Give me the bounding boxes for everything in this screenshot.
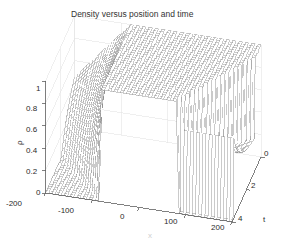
t-tick-4: 4 <box>238 215 242 223</box>
t-axis-label: t <box>263 216 265 224</box>
z-axis-label: ρ <box>16 140 24 145</box>
z-tick-0: 0 <box>36 189 40 197</box>
z-tick-0_4: 0.4 <box>26 147 37 155</box>
page-title: Density versus position and time <box>71 10 193 19</box>
z-tick-1: 1 <box>36 85 40 93</box>
x-tick-0: 0 <box>120 213 124 221</box>
x-axis-label: x <box>148 232 152 240</box>
z-tick-0_8: 0.8 <box>26 105 37 113</box>
x-tick--100: -100 <box>58 207 74 215</box>
t-tick-0: 0 <box>264 150 268 158</box>
figure-canvas: Density versus position and time 1 0.8 0… <box>0 0 288 243</box>
x-tick-100: 100 <box>164 218 177 226</box>
z-tick-0_2: 0.2 <box>26 168 37 176</box>
t-tick-2: 2 <box>251 182 255 190</box>
x-tick-200: 200 <box>211 224 224 232</box>
plot-svg <box>0 0 288 243</box>
z-tick-0_6: 0.6 <box>26 126 37 134</box>
mesh-surface <box>46 25 262 222</box>
x-tick--200: -200 <box>6 200 22 208</box>
